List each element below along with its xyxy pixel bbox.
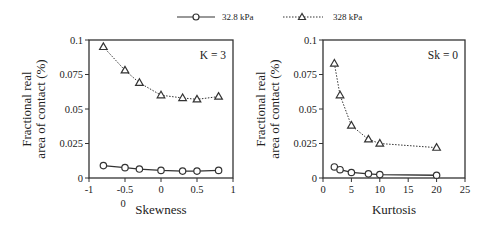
- x-tick-label: 25: [460, 184, 471, 195]
- circle-marker-icon: [433, 172, 439, 178]
- x-tick-label: -0.5: [117, 184, 134, 195]
- legend-label-high-pressure: 328 kPa: [333, 12, 362, 22]
- triangle-marker-icon: [100, 43, 108, 50]
- circle-marker-icon: [337, 167, 343, 173]
- y-tick-label: 0.05: [299, 104, 317, 115]
- triangle-marker-icon: [215, 93, 223, 100]
- x-tick-label: 0.5: [190, 184, 203, 195]
- y-axis-label: Fractional realarea of contact (%): [253, 59, 282, 158]
- x-axis-label: Kurtosis: [372, 202, 416, 217]
- x-axis-label: Skewness: [135, 202, 186, 217]
- triangle-marker-icon: [433, 144, 441, 151]
- x-tick-label: 1: [230, 184, 235, 195]
- kurtosis-chart: 00.0250.050.0750.10510152025KurtosisFrac…: [253, 35, 470, 218]
- y-tick-label: 0: [78, 173, 83, 184]
- triangle-marker-icon: [376, 140, 384, 147]
- chart-svg: 32.8 kPa 328 kPa 00.0250.050.0750.1-1-0.…: [0, 0, 485, 229]
- y-tick-label: 0.025: [59, 138, 83, 149]
- figure: 32.8 kPa 328 kPa 00.0250.050.0750.1-1-0.…: [0, 0, 485, 229]
- circle-marker-icon: [193, 14, 199, 20]
- triangle-marker-icon: [157, 91, 165, 98]
- x-tick-label: 0: [320, 184, 325, 195]
- legend-label-low-pressure: 32.8 kPa: [222, 12, 254, 22]
- x-tick-label: -1: [85, 184, 94, 195]
- y-tick-label: 0.025: [293, 138, 317, 149]
- series-line: [334, 63, 436, 147]
- y-tick-label: 0.075: [59, 69, 83, 80]
- legend: 32.8 kPa 328 kPa: [177, 12, 362, 22]
- x-tick-label: 0: [158, 184, 163, 195]
- circle-marker-icon: [215, 167, 221, 173]
- x-tick-label: 5: [349, 184, 354, 195]
- circle-marker-icon: [194, 168, 200, 174]
- circle-marker-icon: [158, 167, 164, 173]
- x-tick-label: 10: [375, 184, 386, 195]
- circle-marker-icon: [365, 171, 371, 177]
- circle-marker-icon: [136, 166, 142, 172]
- triangle-marker-icon: [331, 59, 339, 66]
- y-tick-label: 0.05: [65, 104, 83, 115]
- triangle-marker-icon: [348, 122, 356, 129]
- triangle-marker-icon: [179, 94, 187, 101]
- panel-annotation: K = 3: [200, 49, 227, 61]
- triangle-marker-icon: [336, 91, 344, 98]
- y-tick-label: 0.1: [70, 35, 83, 46]
- stray-label: 0: [120, 198, 125, 209]
- panel-annotation: Sk = 0: [428, 49, 458, 61]
- skewness-chart: 00.0250.050.0750.1-1-0.500.510SkewnessFr…: [19, 35, 236, 218]
- circle-marker-icon: [122, 164, 128, 170]
- circle-marker-icon: [100, 162, 106, 168]
- x-tick-label: 15: [403, 184, 414, 195]
- circle-marker-icon: [348, 169, 354, 175]
- y-tick-label: 0.1: [304, 35, 317, 46]
- triangle-marker-icon: [365, 135, 373, 142]
- y-tick-label: 0: [312, 173, 317, 184]
- y-tick-label: 0.075: [293, 69, 317, 80]
- triangle-marker-icon: [136, 79, 144, 86]
- circle-marker-icon: [179, 168, 185, 174]
- circle-marker-icon: [377, 171, 383, 177]
- y-axis-label: Fractional realarea of contact (%): [19, 59, 48, 158]
- x-tick-label: 20: [431, 184, 442, 195]
